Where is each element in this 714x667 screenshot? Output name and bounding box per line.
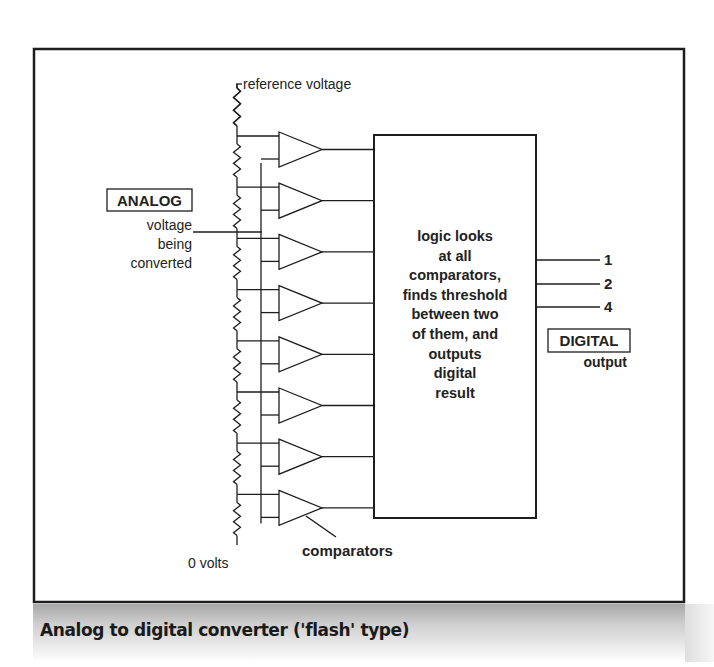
analog-desc-line-2: being — [158, 236, 192, 252]
logic-text-line: between two — [411, 306, 498, 322]
logic-text-line: of them, and — [412, 326, 498, 342]
output-bit-label: 2 — [604, 275, 612, 292]
analog-box-label: ANALOG — [117, 192, 182, 209]
analog-desc-line-1: voltage — [147, 217, 192, 233]
digital-box-label: DIGITAL — [560, 332, 619, 349]
comparators-label: comparators — [302, 542, 393, 559]
logic-text-line: finds threshold — [403, 287, 508, 303]
analog-desc-line-3: converted — [131, 255, 192, 271]
reference-voltage-label: reference voltage — [243, 76, 351, 92]
figure-caption: Analog to digital converter ('flash' typ… — [40, 620, 409, 640]
logic-text-line: outputs — [428, 346, 481, 362]
logic-text-line: result — [435, 385, 475, 401]
output-bit-label: 1 — [604, 251, 612, 268]
logic-text-line: digital — [434, 365, 477, 381]
reference-voltage: reference voltage — [236, 76, 351, 92]
logic-text-line: logic looks — [417, 228, 493, 244]
figure-frame — [34, 49, 684, 602]
ground-label: 0 volts — [188, 555, 228, 571]
logic-text-line: comparators, — [409, 267, 501, 283]
output-bit-label: 4 — [604, 298, 613, 315]
figure: reference voltage logic looksat allcompa… — [0, 0, 714, 667]
logic-text-line: at all — [438, 248, 471, 264]
flash-adc-diagram: reference voltage logic looksat allcompa… — [0, 0, 714, 667]
digital-desc: output — [583, 354, 627, 370]
